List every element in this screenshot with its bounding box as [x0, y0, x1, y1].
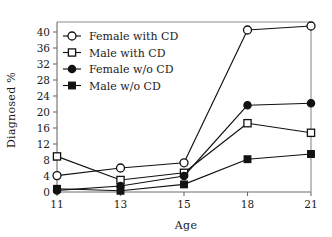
line-chart: 0481216202428323640 1113151821 Female wi… — [0, 0, 332, 237]
y-tick-label: 20 — [37, 106, 50, 118]
figure-container: 0481216202428323640 1113151821 Female wi… — [0, 0, 332, 237]
y-tick-label: 0 — [43, 186, 50, 198]
y-tick-label: 4 — [43, 170, 50, 182]
y-tick-label: 16 — [37, 122, 51, 134]
legend-label: Female w/o CD — [89, 63, 174, 76]
data-point-marker — [117, 188, 124, 195]
x-tick-label: 11 — [50, 198, 63, 210]
y-tick-label: 8 — [43, 154, 50, 166]
legend-marker — [68, 49, 75, 56]
y-tick-label: 32 — [37, 58, 50, 70]
y-axis-title: Diagnosed % — [5, 72, 18, 148]
legend-marker — [69, 82, 76, 89]
x-tick-label: 13 — [114, 198, 127, 210]
data-point-marker — [244, 102, 251, 109]
data-point-marker — [244, 26, 252, 34]
data-point-marker — [244, 156, 251, 163]
y-tick-label: 36 — [37, 42, 51, 54]
y-axis-ticks: 0481216202428323640 — [37, 26, 57, 198]
x-tick-label: 21 — [304, 198, 317, 210]
y-tick-label: 28 — [37, 74, 50, 86]
data-point-marker — [244, 120, 251, 127]
legend-entry: Male w/o CD — [63, 80, 161, 93]
legend-marker — [68, 32, 76, 40]
legend-label: Female with CD — [89, 30, 178, 43]
chart-legend: Female with CDMale with CDFemale w/o CDM… — [63, 30, 178, 93]
legend-entry: Female w/o CD — [63, 63, 174, 76]
series-female-w-o-cd — [53, 100, 314, 194]
data-point-marker — [180, 159, 188, 167]
legend-entry: Female with CD — [63, 30, 178, 43]
data-point-marker — [53, 172, 61, 180]
x-axis-ticks: 1113151821 — [50, 192, 317, 210]
data-point-marker — [181, 181, 188, 188]
legend-label: Male w/o CD — [89, 80, 161, 93]
data-point-marker — [307, 22, 315, 30]
y-tick-label: 24 — [37, 90, 51, 102]
data-point-marker — [307, 100, 314, 107]
data-point-marker — [180, 172, 187, 179]
y-tick-label: 40 — [37, 26, 50, 38]
legend-label: Male with CD — [89, 47, 166, 60]
legend-entry: Male with CD — [63, 47, 166, 60]
legend-marker — [68, 65, 75, 72]
data-point-marker — [117, 164, 125, 172]
data-point-marker — [53, 153, 60, 160]
data-point-marker — [307, 129, 314, 136]
y-tick-label: 12 — [37, 138, 50, 150]
x-tick-label: 18 — [241, 198, 254, 210]
data-point-marker — [54, 186, 61, 193]
x-tick-label: 15 — [177, 198, 190, 210]
x-axis-title: Age — [174, 219, 197, 232]
data-point-marker — [308, 151, 315, 158]
